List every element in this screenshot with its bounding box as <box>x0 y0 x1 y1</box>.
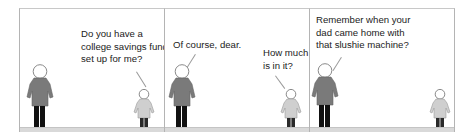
child-figure <box>133 89 155 130</box>
comic-panel-3: Remember when your dad came home with th… <box>309 8 455 132</box>
ground-strip <box>165 127 309 132</box>
speech-text-adult: Remember when your dad came home with th… <box>316 14 410 52</box>
speech-text-child: How much is in it? <box>263 47 308 72</box>
speech-tail <box>275 75 285 89</box>
speech-text-adult: Of course, dear. <box>173 39 241 52</box>
adult-figure <box>26 64 54 130</box>
adult-figure <box>311 63 339 130</box>
ground-strip <box>310 127 454 132</box>
child-figure <box>429 89 451 130</box>
comic-panel-2: Of course, dear. How much is in it? <box>164 8 309 132</box>
ground-strip <box>20 127 164 132</box>
comic-panel-1: Do you have a college savings fund set u… <box>19 8 164 132</box>
speech-tail <box>136 71 146 87</box>
child-figure <box>280 89 302 130</box>
adult-figure <box>168 64 196 130</box>
comic-strip: Do you have a college savings fund set u… <box>19 8 455 132</box>
speech-text-child: Do you have a college savings fund set u… <box>81 28 164 66</box>
